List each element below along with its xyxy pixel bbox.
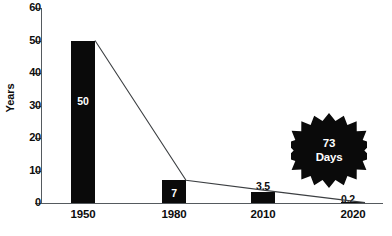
x-tick-label-2020: 2020 <box>323 208 383 220</box>
y-axis-line <box>41 8 42 203</box>
bar-1980: 7 <box>162 180 186 203</box>
x-tick-label-2010: 2010 <box>233 208 293 220</box>
bar-value-label-2010: 3.5 <box>233 180 293 192</box>
bar-value-label-1950: 50 <box>71 95 95 107</box>
bar-value-label-2020: 0.2 <box>318 193 378 205</box>
y-tick-label-40: 40 <box>13 67 41 78</box>
x-tick-label-1980: 1980 <box>144 208 204 220</box>
starburst-annotation: 73 Days <box>291 110 367 192</box>
y-axis-title: Years <box>4 70 16 126</box>
starburst-text-line1: 73 <box>291 136 367 150</box>
bar-2010 <box>251 192 275 203</box>
y-tick-label-20: 20 <box>13 132 41 143</box>
bar-1950: 50 <box>71 41 95 204</box>
y-tick-label-60: 60 <box>13 2 41 13</box>
y-tick-label-50: 50 <box>13 35 41 46</box>
x-tick-label-1950: 1950 <box>53 208 113 220</box>
y-tick-label-0: 0 <box>13 197 41 208</box>
bar-value-label-1980: 7 <box>162 187 186 199</box>
starburst-text: 73 Days <box>291 136 367 164</box>
y-tick-label-10: 10 <box>13 165 41 176</box>
starburst-text-line2: Days <box>291 150 367 164</box>
y-tick-label-30: 30 <box>13 100 41 111</box>
chart-figure: Years 60 50 40 30 20 10 0 50 7 3.5 0 <box>0 0 392 236</box>
